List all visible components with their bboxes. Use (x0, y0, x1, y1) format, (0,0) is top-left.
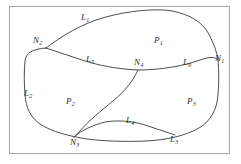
node-label-N4: N4 (134, 58, 143, 67)
line-label-L5: L5 (86, 55, 94, 64)
outer-boundary-path (24, 10, 219, 142)
line-label-L4: L4 (126, 116, 134, 125)
line-label-L2: L2 (24, 89, 32, 98)
line-label-L6: L6 (183, 58, 191, 67)
topology-drawing (0, 0, 241, 164)
arc-L4-path (74, 70, 138, 137)
arc-N3-lower-path (74, 121, 175, 137)
polygon-label-P1: P1 (154, 36, 163, 45)
node-label-N2: N2 (33, 36, 42, 45)
polygon-label-P2: P2 (66, 97, 75, 106)
polygon-label-P3: P3 (187, 97, 196, 106)
line-label-L3: L3 (170, 135, 178, 144)
figure-container: N1 N2 N3 N4 L1 L2 L3 L4 L5 L6 P1 P2 P3 (0, 0, 241, 164)
arc-L5-L6-path (46, 48, 218, 70)
node-label-N1: N1 (215, 54, 224, 63)
node-label-N3: N3 (70, 138, 79, 147)
line-label-L1: L1 (81, 13, 89, 22)
